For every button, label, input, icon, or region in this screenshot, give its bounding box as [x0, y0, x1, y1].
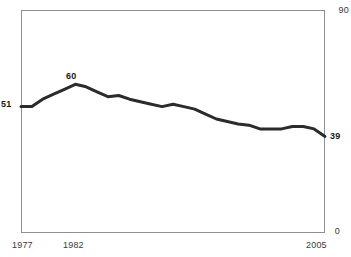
- y-axis-min-label: 0: [335, 226, 340, 236]
- chart-figure: 90 0 1977 1982 2005 51 60 39: [0, 0, 351, 257]
- plot-area-frame: [21, 10, 325, 233]
- x-axis-mid-label: 1982: [63, 240, 84, 250]
- start-value-annotation: 51: [1, 99, 11, 109]
- peak-value-annotation: 60: [66, 71, 76, 81]
- end-value-annotation: 39: [330, 131, 340, 141]
- x-axis-start-label: 1977: [12, 240, 33, 250]
- chart-title: [0, 0, 351, 2]
- y-axis-max-label: 90: [339, 5, 349, 15]
- x-axis-end-label: 2005: [306, 240, 327, 250]
